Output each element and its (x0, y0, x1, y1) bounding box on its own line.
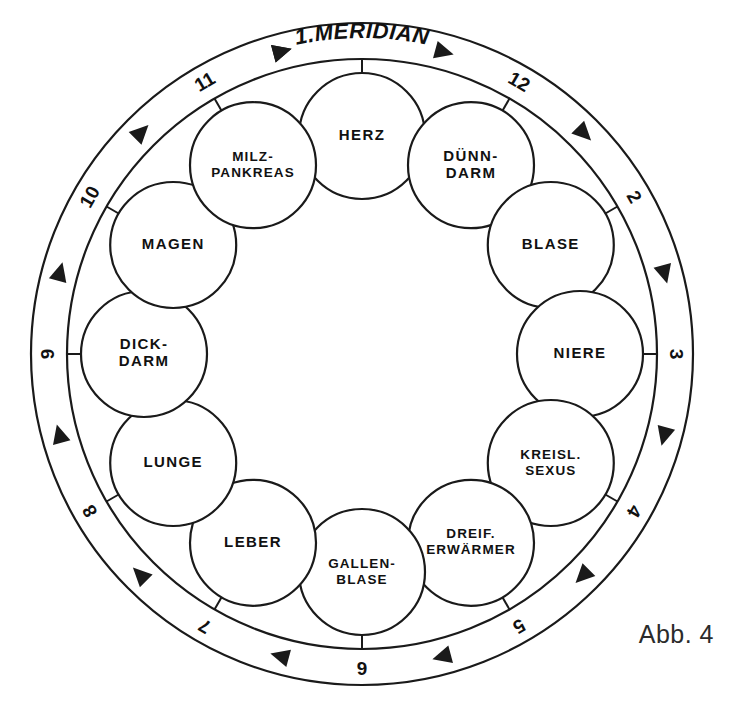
flow-arrow-icon (653, 425, 675, 448)
flow-arrow-icon (48, 422, 70, 445)
ring-number: 2 (623, 187, 646, 207)
ring-number: 3 (666, 349, 687, 360)
flow-arrow-icon (127, 561, 153, 587)
flow-arrow-icon (430, 646, 453, 668)
ring-number: 9 (37, 349, 58, 360)
organ-label: PANKREAS (211, 165, 295, 180)
ring-number: 5 (509, 615, 529, 639)
ring-number: 12 (505, 67, 534, 96)
organ-circle-group: HERZDÜNN-DARMBLASENIEREKREISL.SEXUSDREIF… (81, 73, 643, 635)
organ-label: LUNGE (143, 453, 203, 470)
organ-label: LEBER (224, 533, 282, 550)
organ-label: BLASE (522, 235, 580, 252)
meridian-diagram-stage: 12234567891011 HERZDÜNN-DARMBLASENIEREKR… (0, 0, 742, 707)
organ-label: MAGEN (142, 235, 205, 252)
meridian-title: 1.MERIDIAN (293, 18, 432, 50)
organ-label: DICK- (120, 335, 169, 352)
flow-arrow-icon (49, 260, 71, 283)
organ-label: DARM (446, 164, 497, 181)
flow-arrow-icon (268, 645, 291, 667)
organ-label: SEXUS (525, 463, 576, 478)
flow-arrow-icon (129, 119, 155, 145)
figure-caption: Abb. 4 (639, 620, 714, 649)
meridian-wheel-svg: 12234567891011 HERZDÜNN-DARMBLASENIEREKR… (0, 0, 742, 707)
organ-node-milz-pankreas[interactable]: MILZ-PANKREAS (190, 102, 316, 228)
organ-label: KREISL. (520, 447, 581, 462)
organ-node-blase[interactable]: BLASE (488, 182, 614, 308)
organ-label: NIERE (554, 344, 607, 361)
organ-node-herz[interactable]: HERZ (299, 73, 425, 199)
organ-node-dreif-erwaermer[interactable]: DREIF.ERWÄRMER (408, 480, 534, 606)
organ-node-gallenblase[interactable]: GALLEN-BLASE (299, 509, 425, 635)
organ-node-dickdarm[interactable]: DICK-DARM (81, 291, 207, 417)
flow-arrow-icon (654, 263, 676, 286)
ring-number: 8 (78, 501, 101, 521)
flow-arrow-icon (569, 563, 595, 589)
organ-label: MILZ- (232, 149, 274, 164)
organ-label: DÜNN- (443, 147, 498, 164)
ring-number: 11 (191, 67, 219, 95)
organ-label: BLASE (336, 572, 387, 587)
flow-arrow-icon (571, 121, 597, 147)
organ-label: GALLEN- (328, 556, 396, 571)
flow-arrow-icon (433, 41, 456, 63)
organ-label: ERWÄRMER (426, 542, 516, 557)
ring-number: 4 (622, 501, 646, 521)
organ-label: DARM (119, 352, 170, 369)
flow-arrow-icon (271, 40, 294, 62)
ring-number: 6 (357, 658, 368, 679)
meridian-title-group: 1.MERIDIAN (293, 18, 432, 50)
ring-number: 10 (75, 182, 104, 211)
ring-number: 7 (195, 615, 215, 638)
organ-node-lunge[interactable]: LUNGE (110, 400, 236, 526)
organ-label: DREIF. (446, 526, 495, 541)
organ-label: HERZ (339, 126, 385, 143)
meridian-title-text: 1.MERIDIAN (293, 18, 432, 50)
organ-node-niere[interactable]: NIERE (517, 291, 643, 417)
